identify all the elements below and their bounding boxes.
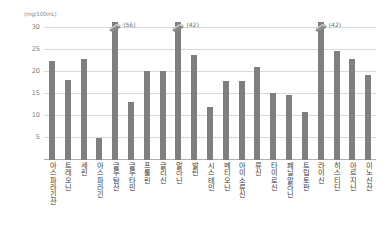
x-label-slot: 아이소류신 bbox=[234, 162, 250, 242]
x-label-slot: 아르지닌 bbox=[344, 162, 360, 242]
x-label-slot: 히스티딘 bbox=[329, 162, 345, 242]
bar bbox=[223, 81, 229, 160]
bar-slot: (42) bbox=[171, 22, 187, 160]
bar-series: (56)(42)(42) bbox=[44, 22, 376, 160]
x-tick-label: 아르지닌 bbox=[349, 162, 356, 242]
bar-slot bbox=[139, 22, 155, 160]
bar bbox=[65, 80, 71, 160]
x-label-slot: 글리신 bbox=[155, 162, 171, 242]
bar bbox=[207, 107, 213, 160]
x-tick-label: 타이로신 bbox=[270, 162, 277, 242]
x-tick-label: 라이신 bbox=[317, 162, 324, 242]
x-tick-label: 이노신산 bbox=[364, 162, 371, 242]
x-label-slot: 아스파라긴산 bbox=[44, 162, 60, 242]
x-tick-label: 아이소류신 bbox=[238, 162, 245, 242]
bar bbox=[81, 59, 87, 160]
x-label-slot: 세린 bbox=[76, 162, 92, 242]
bar-slot bbox=[218, 22, 234, 160]
bar-slot bbox=[297, 22, 313, 160]
bar bbox=[334, 51, 340, 160]
x-label-slot: 류신 bbox=[250, 162, 266, 242]
x-label-slot: 글루탐산 bbox=[107, 162, 123, 242]
x-label-slot: 트립토판 bbox=[297, 162, 313, 242]
x-tick-label: 글루타민 bbox=[127, 162, 134, 242]
x-label-slot: 페닐알라닌 bbox=[281, 162, 297, 242]
bar bbox=[239, 81, 245, 160]
y-tick-label: 5 bbox=[6, 134, 40, 141]
x-tick-label: 시스테인 bbox=[206, 162, 213, 242]
bar bbox=[254, 67, 260, 160]
bar-slot bbox=[265, 22, 281, 160]
bar-slot bbox=[186, 22, 202, 160]
bar bbox=[112, 22, 118, 160]
bar-chart: (mg/100mL) 30 25 20 15 10 5 (56)(42)(42)… bbox=[0, 0, 390, 243]
bar bbox=[302, 112, 308, 160]
x-tick-label: 발린 bbox=[191, 162, 198, 242]
axis-break-icon bbox=[315, 17, 326, 26]
x-label-slot: 글루타민 bbox=[123, 162, 139, 242]
x-label-slot: 이노신산 bbox=[360, 162, 376, 242]
x-tick-label: 세린 bbox=[80, 162, 87, 242]
bar bbox=[191, 55, 197, 160]
x-tick-label: 프롤린 bbox=[143, 162, 150, 242]
bar bbox=[49, 61, 55, 160]
x-tick-label: 글루탐산 bbox=[111, 162, 118, 242]
bar-slot bbox=[60, 22, 76, 160]
y-axis-unit-label: (mg/100mL) bbox=[24, 11, 57, 17]
bar-slot bbox=[44, 22, 60, 160]
x-tick-label: 아스파라긴 bbox=[96, 162, 103, 242]
bar-slot bbox=[76, 22, 92, 160]
bar-slot bbox=[281, 22, 297, 160]
x-label-slot: 알라닌 bbox=[171, 162, 187, 242]
bar-slot bbox=[234, 22, 250, 160]
x-tick-label: 트레오닌 bbox=[64, 162, 71, 242]
x-label-slot: 프롤린 bbox=[139, 162, 155, 242]
bar bbox=[160, 71, 166, 160]
x-label-slot: 시스테인 bbox=[202, 162, 218, 242]
x-tick-label: 류신 bbox=[254, 162, 261, 242]
y-tick-label: 20 bbox=[6, 68, 40, 75]
y-tick-label: 15 bbox=[6, 90, 40, 97]
bar bbox=[365, 75, 371, 160]
bar bbox=[96, 138, 102, 160]
bar bbox=[144, 71, 150, 160]
x-tick-label: 트립토판 bbox=[301, 162, 308, 242]
x-label-slot: 트레오닌 bbox=[60, 162, 76, 242]
bar bbox=[175, 22, 181, 160]
bar bbox=[349, 59, 355, 160]
y-axis-ticks: 30 25 20 15 10 5 bbox=[0, 22, 40, 160]
y-tick-label: 10 bbox=[6, 112, 40, 119]
x-label-slot: 아스파라긴 bbox=[91, 162, 107, 242]
bar bbox=[128, 102, 134, 160]
bar-slot bbox=[360, 22, 376, 160]
x-tick-label: 페닐알라닌 bbox=[285, 162, 292, 242]
bar-slot: (42) bbox=[313, 22, 329, 160]
bar-slot bbox=[155, 22, 171, 160]
x-tick-label: 메티오닌 bbox=[222, 162, 229, 242]
x-tick-label: 글리신 bbox=[159, 162, 166, 242]
bar-slot bbox=[123, 22, 139, 160]
bar bbox=[318, 22, 324, 160]
x-label-slot: 타이로신 bbox=[265, 162, 281, 242]
x-tick-label: 알라닌 bbox=[175, 162, 182, 242]
bar-slot bbox=[202, 22, 218, 160]
x-axis-labels: 아스파라긴산트레오닌세린아스파라긴글루탐산글루타민프롤린글리신알라닌발린시스테인… bbox=[44, 162, 376, 242]
bar-slot bbox=[91, 22, 107, 160]
x-tick-label: 아스파라긴산 bbox=[48, 162, 55, 242]
bar-slot: (56) bbox=[107, 22, 123, 160]
y-tick-label: 30 bbox=[6, 24, 40, 31]
x-tick-label: 히스티딘 bbox=[333, 162, 340, 242]
axis-break-icon bbox=[173, 17, 184, 26]
bar-slot bbox=[250, 22, 266, 160]
bar bbox=[270, 93, 276, 160]
x-label-slot: 라이신 bbox=[313, 162, 329, 242]
bar-slot bbox=[344, 22, 360, 160]
bar bbox=[286, 95, 292, 160]
x-label-slot: 발린 bbox=[186, 162, 202, 242]
y-tick-label: 25 bbox=[6, 46, 40, 53]
bar-slot bbox=[329, 22, 345, 160]
axis-break-icon bbox=[110, 17, 121, 26]
x-label-slot: 메티오닌 bbox=[218, 162, 234, 242]
